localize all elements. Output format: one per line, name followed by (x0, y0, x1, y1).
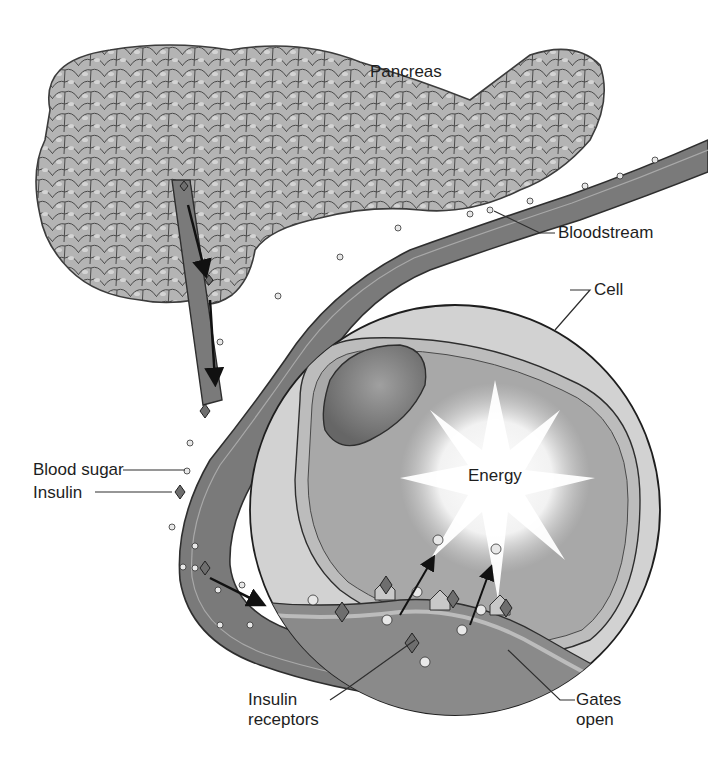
pancreas (36, 45, 604, 304)
label-cell: Cell (594, 280, 623, 300)
label-insulin-receptors: Insulin receptors (248, 690, 319, 730)
label-blood-sugar: Blood sugar (33, 460, 124, 480)
label-insulin: Insulin (33, 483, 82, 503)
label-pancreas: Pancreas (370, 62, 442, 82)
label-bloodstream: Bloodstream (558, 223, 653, 243)
insulin-diagram (0, 0, 708, 759)
label-gates-open: Gates open (576, 690, 621, 730)
label-energy: Energy (468, 466, 522, 486)
